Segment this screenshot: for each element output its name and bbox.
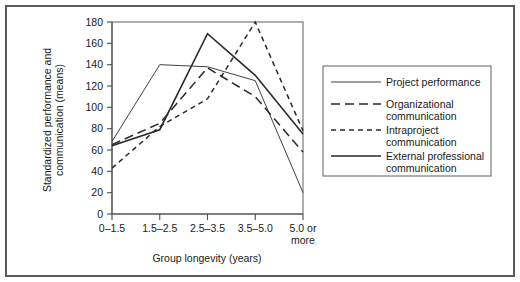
legend-label-continued: communication (386, 136, 457, 148)
legend: Project performance Organizational commu… (323, 66, 491, 176)
y-tick-label: 0 (97, 208, 103, 220)
x-axis-title: Group longevity (years) (152, 252, 261, 264)
y-tick-label: 20 (91, 186, 103, 198)
series-layer (112, 22, 303, 193)
legend-label-continued: communication (386, 110, 457, 122)
y-tick-label: 140 (85, 58, 103, 70)
y-axis-title-line1: Standardized performance and (41, 48, 53, 192)
series-line-long-dash (112, 68, 303, 152)
y-tick-label: 100 (85, 101, 103, 113)
series-line-solid-thin (112, 65, 303, 193)
x-tick-label-continued: more (291, 234, 315, 246)
plot-area-box (112, 22, 303, 214)
y-axis-ticks: 0 20 40 60 80 100 120 140 160 180 (85, 16, 112, 220)
y-tick-label: 80 (91, 122, 103, 134)
x-tick-label: 3.5–5.0 (238, 222, 273, 234)
legend-label: Organizational (386, 98, 454, 110)
series-line-solid-thick (112, 34, 303, 146)
y-tick-label: 180 (85, 16, 103, 28)
x-tick-label: 0–1.5 (99, 222, 125, 234)
x-axis-ticks: 0–1.5 1.5–2.5 2.5–3.5 3.5–5.0 5.0 or mor… (99, 214, 317, 246)
legend-label-continued: communication (386, 162, 457, 174)
legend-label: Intraproject (386, 124, 439, 136)
y-tick-label: 160 (85, 37, 103, 49)
legend-label: External professional (386, 150, 484, 162)
legend-label: Project performance (386, 76, 481, 88)
y-axis-title-line2: communication (means) (53, 64, 65, 176)
x-tick-label: 2.5–3.5 (190, 222, 225, 234)
y-tick-label: 60 (91, 144, 103, 156)
x-tick-label: 5.0 or (290, 222, 317, 234)
figure-container: Standardized performance and communicati… (0, 0, 520, 282)
y-tick-label: 120 (85, 80, 103, 92)
x-tick-label: 1.5–2.5 (142, 222, 177, 234)
y-axis-title: Standardized performance and communicati… (41, 48, 65, 192)
line-chart: Standardized performance and communicati… (0, 0, 520, 282)
y-tick-label: 40 (91, 165, 103, 177)
